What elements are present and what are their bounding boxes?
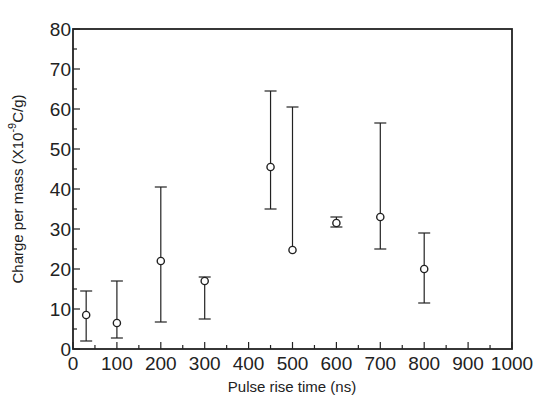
error-bar-chart: 01002003004005006007008009001000 0102030… bbox=[0, 0, 547, 409]
data-point bbox=[330, 217, 342, 227]
y-tick-label: 20 bbox=[50, 259, 71, 280]
circle-marker-icon bbox=[113, 319, 120, 326]
y-axis-title-suffix: C/g) bbox=[9, 94, 26, 122]
x-tick-label: 500 bbox=[277, 353, 309, 374]
y-axis-title: Charge per mass (X10-9C/g) bbox=[6, 94, 26, 283]
x-tick-label: 600 bbox=[321, 353, 353, 374]
data-point bbox=[80, 291, 92, 341]
y-tick-label: 30 bbox=[50, 219, 71, 240]
x-tick-label: 300 bbox=[189, 353, 221, 374]
x-axis-title: Pulse rise time (ns) bbox=[228, 378, 356, 395]
x-tick-label: 100 bbox=[101, 353, 133, 374]
data-point bbox=[199, 277, 211, 319]
x-tick-label: 800 bbox=[408, 353, 440, 374]
y-tick-label: 0 bbox=[60, 339, 71, 360]
data-point bbox=[287, 107, 299, 254]
circle-marker-icon bbox=[377, 213, 384, 220]
y-tick-label: 50 bbox=[50, 139, 71, 160]
data-point bbox=[155, 187, 167, 322]
y-tick-label: 40 bbox=[50, 179, 71, 200]
data-point bbox=[418, 233, 430, 303]
circle-marker-icon bbox=[421, 265, 428, 272]
x-tick-label: 900 bbox=[452, 353, 484, 374]
circle-marker-icon bbox=[267, 163, 274, 170]
data-point bbox=[374, 123, 386, 249]
circle-marker-icon bbox=[289, 246, 296, 253]
x-tick-label: 700 bbox=[364, 353, 396, 374]
y-tick-label: 10 bbox=[50, 299, 71, 320]
y-tick-labels: 01020304050607080 bbox=[50, 19, 71, 360]
y-axis-title-prefix: Charge per mass (X10 bbox=[9, 133, 26, 284]
data-point bbox=[265, 91, 277, 209]
circle-marker-icon bbox=[201, 277, 208, 284]
data-point bbox=[111, 281, 123, 338]
y-tick-label: 80 bbox=[50, 19, 71, 40]
circle-marker-icon bbox=[333, 219, 340, 226]
x-tick-labels: 01002003004005006007008009001000 bbox=[68, 353, 533, 374]
y-tick-label: 60 bbox=[50, 99, 71, 120]
circle-marker-icon bbox=[157, 257, 164, 264]
data-points bbox=[80, 91, 430, 341]
x-tick-label: 1000 bbox=[491, 353, 533, 374]
y-axis-title-exponent: -9 bbox=[6, 123, 18, 133]
y-tick-label: 70 bbox=[50, 59, 71, 80]
x-tick-label: 200 bbox=[145, 353, 177, 374]
x-tick-label: 400 bbox=[233, 353, 265, 374]
circle-marker-icon bbox=[83, 311, 90, 318]
